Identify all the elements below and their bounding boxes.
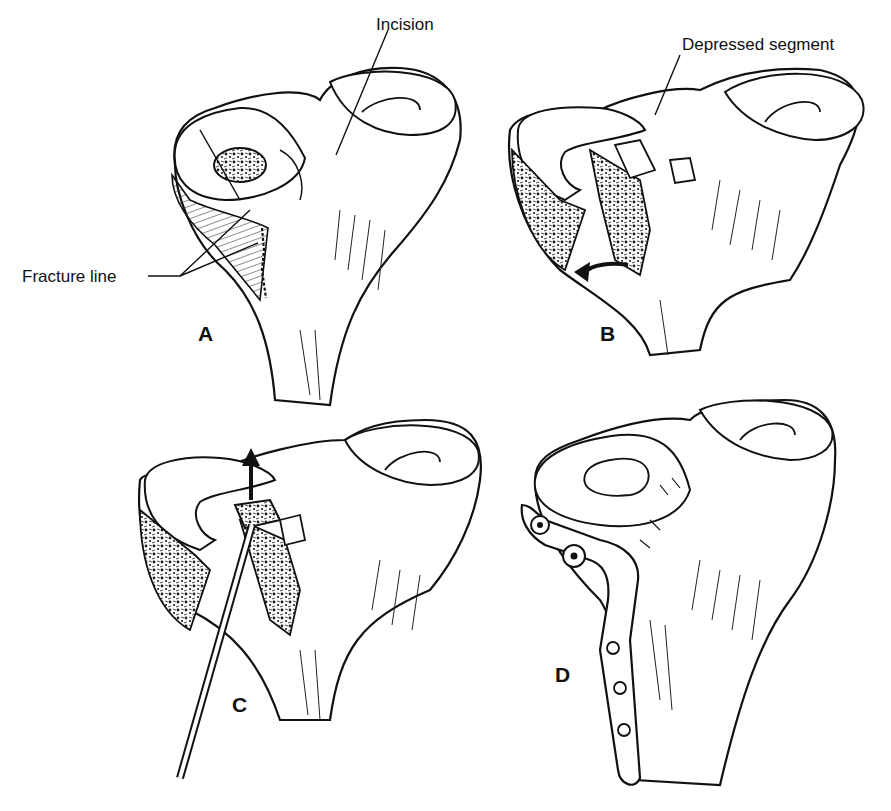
panel-label-d: D (555, 664, 570, 685)
label-fracture-line: Fracture line (22, 268, 116, 285)
illustration-canvas (0, 0, 891, 811)
panel-label-a: A (198, 323, 213, 344)
panel-c-drawing (139, 420, 481, 778)
panel-d-drawing (522, 400, 836, 785)
panel-label-c: C (232, 694, 247, 715)
panel-b-drawing (509, 55, 863, 355)
label-depressed-segment: Depressed segment (682, 36, 834, 53)
panel-a-drawing (148, 30, 461, 405)
label-incision: Incision (376, 16, 434, 33)
panel-label-b: B (600, 323, 615, 344)
